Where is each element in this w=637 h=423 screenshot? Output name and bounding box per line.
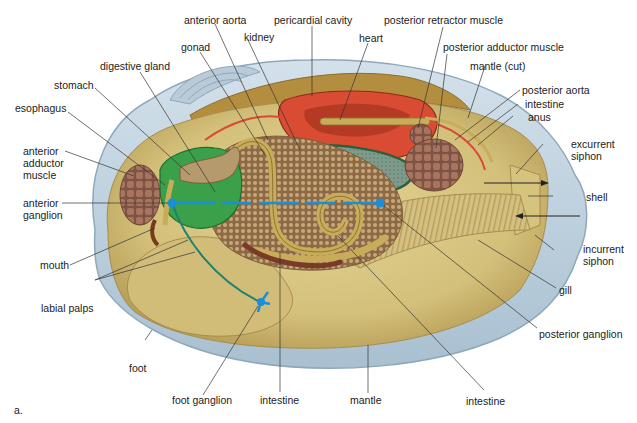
label-stomach: stomach bbox=[54, 79, 94, 91]
label-incurrent-siphon: incurrent siphon bbox=[583, 243, 637, 267]
label-gonad: gonad bbox=[181, 41, 210, 53]
label-mouth: mouth bbox=[40, 259, 69, 271]
label-gill: gill bbox=[559, 284, 572, 296]
label-anterior-adductor-muscle: anterior adductor muscle bbox=[23, 145, 73, 181]
label-anterior-ganglion: anterior ganglion bbox=[23, 197, 73, 221]
label-kidney: kidney bbox=[244, 31, 274, 43]
label-intestine-top: intestine bbox=[525, 98, 564, 110]
label-intestine-bottom-right: intestine bbox=[466, 395, 505, 407]
posterior-ganglion-dot bbox=[376, 199, 385, 208]
label-digestive-gland: digestive gland bbox=[100, 60, 170, 72]
label-foot: foot bbox=[129, 362, 147, 374]
figure-letter: a. bbox=[14, 404, 23, 416]
label-intestine-bottom-mid: intestine bbox=[260, 394, 299, 406]
label-anterior-aorta: anterior aorta bbox=[184, 14, 246, 26]
anterior-ganglion-dot bbox=[168, 199, 177, 208]
label-labial-palps: labial palps bbox=[41, 302, 94, 314]
anterior-adductor-muscle-shape bbox=[120, 165, 160, 225]
clam-anatomy-figure: anterior aorta pericardial cavity poster… bbox=[0, 0, 637, 423]
label-esophagus: esophagus bbox=[15, 102, 66, 114]
label-heart: heart bbox=[359, 32, 383, 44]
label-posterior-ganglion: posterior ganglion bbox=[539, 328, 622, 340]
posterior-adductor-muscle-shape bbox=[405, 139, 463, 191]
label-shell: shell bbox=[586, 191, 608, 203]
label-foot-ganglion: foot ganglion bbox=[172, 394, 232, 406]
label-posterior-retractor-muscle: posterior retractor muscle bbox=[384, 14, 503, 26]
label-anus: anus bbox=[528, 111, 551, 123]
clam-illustration bbox=[0, 0, 637, 423]
label-mantle-cut: mantle (cut) bbox=[470, 60, 525, 72]
label-pericardial-cavity: pericardial cavity bbox=[274, 14, 352, 26]
label-mantle: mantle bbox=[350, 394, 382, 406]
label-excurrent-siphon: excurrent siphon bbox=[571, 138, 626, 162]
label-posterior-adductor-muscle: posterior adductor muscle bbox=[443, 41, 564, 53]
label-posterior-aorta: posterior aorta bbox=[522, 84, 590, 96]
